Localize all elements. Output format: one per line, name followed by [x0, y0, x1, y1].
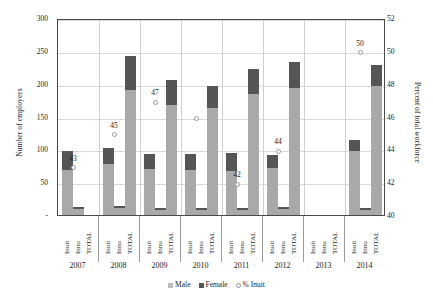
bar-segment-female — [114, 206, 125, 209]
bar-segment-male — [166, 105, 177, 215]
bar-segment-female — [166, 80, 177, 106]
x-group-2012: InuitInnuTOTAL2012 — [262, 216, 303, 274]
bar-2012-innu — [278, 207, 289, 215]
group-separator — [304, 20, 305, 215]
pct-inuit-marker-2009 — [153, 100, 158, 105]
x-group-divider — [303, 216, 304, 262]
bar-2010-innu — [196, 208, 207, 215]
bar-2012-total — [289, 62, 300, 215]
x-tick-label-2014-total: TOTAL — [372, 218, 380, 254]
x-group-divider — [221, 216, 222, 262]
y-tick-label-right: 42 — [387, 178, 413, 187]
legend-label: Male — [175, 280, 190, 289]
x-tick-label-2012-inuit: Inuit — [268, 218, 276, 254]
bar-segment-male — [278, 209, 289, 215]
y-tick-label-left: 150 — [22, 113, 48, 122]
bar-segment-female — [267, 155, 278, 168]
x-tick-label-2008-total: TOTAL — [126, 218, 134, 254]
bar-2009-total — [166, 80, 177, 215]
pct-inuit-label-2009: 47 — [146, 88, 164, 97]
bar-segment-male — [196, 210, 207, 215]
x-group-2013: InuitInnuTOTAL2013 — [303, 216, 344, 274]
x-group-divider — [262, 216, 263, 262]
x-group-2010: InuitInnuTOTAL2010 — [180, 216, 221, 274]
x-group-2009: InuitInnuTOTAL2009 — [139, 216, 180, 274]
pct-inuit-label-2008: 45 — [105, 121, 123, 130]
pct-inuit-label-2014: 50 — [351, 39, 369, 48]
bar-segment-female — [289, 62, 300, 88]
legend-swatch-female — [199, 283, 204, 288]
bar-2009-innu — [155, 208, 166, 215]
bar-2008-inuit — [103, 148, 114, 215]
y-tick-label-right: 48 — [387, 80, 413, 89]
bar-2009-inuit — [144, 154, 155, 215]
bar-2011-total — [248, 69, 259, 215]
group-separator — [140, 20, 141, 215]
bar-segment-female — [226, 153, 237, 171]
x-tick-label-2011-inuit: Inuit — [227, 218, 235, 254]
bar-2014-total — [371, 65, 382, 215]
bar-segment-male — [144, 169, 155, 215]
y-tick-label-left: 50 — [22, 178, 48, 187]
group-separator — [99, 20, 100, 215]
bar-segment-female — [185, 154, 196, 170]
x-group-divider — [180, 216, 181, 262]
x-axis-labels: InuitInnuTOTAL2007InuitInnuTOTAL2008Inui… — [57, 216, 385, 274]
x-year-label-2008: 2008 — [98, 261, 139, 270]
pct-inuit-marker-2007 — [71, 165, 76, 170]
x-group-divider — [139, 216, 140, 262]
bar-segment-male — [125, 90, 136, 215]
x-group-2008: InuitInnuTOTAL2008 — [98, 216, 139, 274]
x-tick-label-2009-inuit: Inuit — [145, 218, 153, 254]
bar-2011-innu — [237, 208, 248, 215]
bar-segment-female — [237, 208, 248, 210]
y-tick-label-left: 100 — [22, 145, 48, 154]
y-tick-label-left: 300 — [22, 14, 48, 23]
x-group-divider — [98, 216, 99, 262]
bar-segment-female — [371, 65, 382, 86]
x-tick-label-2008-inuit: Inuit — [104, 218, 112, 254]
y-tick-label-right: 40 — [387, 211, 413, 220]
bar-segment-female — [248, 69, 259, 94]
x-year-label-2014: 2014 — [344, 261, 385, 270]
pct-inuit-label-2007: 43 — [64, 154, 82, 163]
chart-legend: MaleFemale% Inuit — [0, 280, 433, 289]
legend-label: % Inuit — [243, 280, 265, 289]
group-separator — [263, 20, 264, 215]
x-tick-label-2014-innu: Innu — [361, 218, 369, 254]
x-tick-label-2010-innu: Innu — [197, 218, 205, 254]
bar-segment-female — [103, 148, 114, 164]
bar-segment-female — [73, 207, 84, 209]
x-tick-label-2014-inuit: Inuit — [350, 218, 358, 254]
gridline — [58, 20, 384, 21]
group-separator — [181, 20, 182, 215]
y-tick-label-right: 50 — [387, 47, 413, 56]
x-tick-label-2010-inuit: Inuit — [186, 218, 194, 254]
gridline — [58, 53, 384, 54]
bar-2014-innu — [360, 208, 371, 215]
x-tick-label-2009-innu: Innu — [156, 218, 164, 254]
y-tick-label-right: 44 — [387, 145, 413, 154]
bar-segment-female — [155, 208, 166, 210]
x-year-label-2007: 2007 — [57, 261, 98, 270]
bar-segment-male — [289, 88, 300, 215]
legend-item-female: Female — [199, 280, 228, 289]
x-tick-label-2007-innu: Innu — [74, 218, 82, 254]
bar-segment-male — [62, 170, 73, 215]
bar-2008-total — [125, 56, 136, 215]
x-tick-label-2008-innu: Innu — [115, 218, 123, 254]
bar-segment-female — [207, 86, 218, 108]
bar-segment-male — [267, 168, 278, 215]
bar-2010-total — [207, 86, 218, 215]
pct-inuit-marker-2012 — [276, 149, 281, 154]
bar-segment-male — [237, 210, 248, 215]
bar-segment-female — [144, 154, 155, 169]
x-tick-label-2007-inuit: Inuit — [63, 218, 71, 254]
x-tick-label-2009-total: TOTAL — [167, 218, 175, 254]
y-axis-right: 40424446485052 — [387, 0, 413, 302]
x-group-divider — [344, 216, 345, 262]
y-axis-left: -50100150200250300 — [22, 0, 48, 302]
bar-segment-female — [360, 208, 371, 210]
bar-segment-male — [114, 208, 125, 215]
gridline — [58, 119, 384, 120]
